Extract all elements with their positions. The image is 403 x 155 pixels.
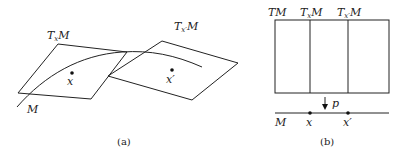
fiber-x-label: TxM — [300, 6, 323, 20]
base-manifold-label: M — [274, 116, 287, 129]
tangent-plane-x-prime-label: Tx′M — [174, 20, 199, 34]
point-x-prime-dot — [170, 68, 174, 72]
point-x-prime-label: x′ — [166, 73, 175, 86]
caption-b: (b) — [320, 136, 334, 147]
panel-b: TM TxM Tx′M p M x x′ (b) — [268, 6, 389, 147]
base-point-x-prime-dot — [346, 111, 350, 115]
point-x-label: x — [67, 75, 74, 88]
diagram-canvas: TxM Tx′M x x′ M (a) TM TxM Tx′M p M x x′… — [0, 0, 403, 155]
base-point-x-prime-label: x′ — [343, 116, 352, 129]
panel-a: TxM Tx′M x x′ M (a) — [17, 20, 238, 147]
manifold-label: M — [26, 103, 39, 116]
caption-a: (a) — [117, 136, 131, 147]
projection-arrow-icon — [322, 104, 328, 110]
bundle-label: TM — [268, 6, 287, 19]
base-point-x-dot — [308, 111, 312, 115]
fiber-x-prime-label: Tx′M — [337, 6, 362, 20]
tangent-plane-x-label: TxM — [47, 29, 70, 43]
tangent-bundle-rect — [275, 20, 389, 93]
projection-label: p — [332, 97, 339, 110]
base-point-x-label: x — [306, 116, 313, 129]
